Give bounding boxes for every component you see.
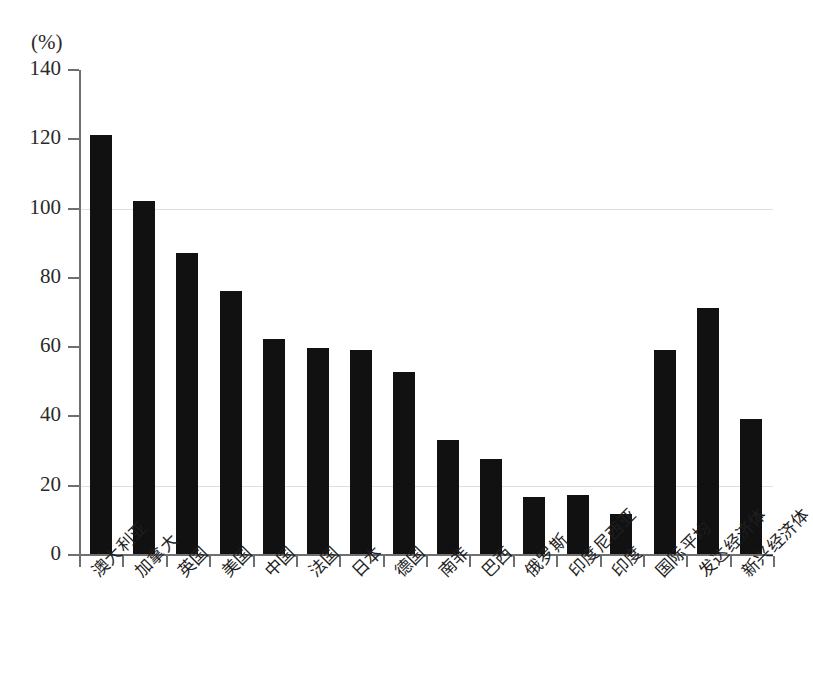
y-tick-label-100: 100 [30, 197, 62, 218]
bar [263, 339, 285, 554]
y-tick-60: 60 [68, 346, 79, 348]
x-tick [79, 556, 81, 567]
y-tick-label-80: 80 [40, 266, 61, 287]
hairline-100 [79, 209, 773, 210]
plot-area: 020406080100120140 [79, 70, 773, 555]
y-tick-140: 140 [68, 69, 79, 71]
bar [220, 291, 242, 554]
bar [654, 350, 676, 554]
y-tick-label-20: 20 [40, 474, 61, 495]
bar [307, 348, 329, 554]
y-tick-label-40: 40 [40, 405, 61, 426]
y-tick-0: 0 [68, 554, 79, 556]
y-tick-label-0: 0 [51, 543, 62, 564]
bar [176, 253, 198, 554]
y-tick-label-120: 120 [30, 127, 62, 148]
x-axis-category-labels: 澳大利亚加拿大英国美国中国法国日本德国南非巴西俄罗斯印度尼西亚印度国际平均发达经… [79, 568, 773, 700]
y-axis-unit-label: (%) [31, 30, 62, 55]
y-tick-label-60: 60 [40, 335, 61, 356]
bar [437, 440, 459, 554]
y-axis-line [79, 70, 81, 555]
y-tick-80: 80 [68, 277, 79, 279]
y-tick-label-140: 140 [30, 58, 62, 79]
y-tick-120: 120 [68, 138, 79, 140]
bar [480, 459, 502, 554]
bar [90, 135, 112, 554]
y-tick-20: 20 [68, 485, 79, 487]
bar [133, 201, 155, 554]
bar [393, 372, 415, 554]
figure-caption [0, 691, 808, 700]
y-tick-100: 100 [68, 208, 79, 210]
bar [350, 350, 372, 554]
y-tick-40: 40 [68, 415, 79, 417]
